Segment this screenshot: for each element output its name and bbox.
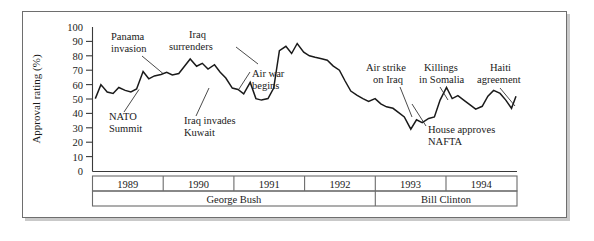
y-tick-label-0: 0: [78, 166, 83, 177]
annotation-somalia-line1: Killings: [424, 62, 458, 73]
y-tick-label-30: 30: [73, 123, 84, 134]
y-tick-label-70: 70: [73, 65, 84, 76]
y-tick-label-100: 100: [67, 22, 83, 33]
approval-rating-chart: 100 90 80 70 60 50 40 30 20 10 0 Approva…: [0, 0, 594, 241]
annotation-iraq-surrenders: Iraq surrenders: [169, 29, 258, 64]
y-tick-label-50: 50: [73, 94, 84, 105]
y-axis-title: Approval rating (%): [30, 54, 43, 144]
annotation-surrender-line2: surrenders: [169, 41, 213, 52]
year-label-1990: 1990: [188, 179, 209, 190]
annotation-somalia-line2: in Somalia: [419, 74, 465, 85]
annotation-surrender-line1: Iraq: [189, 29, 207, 40]
annotation-invade-line2: Kuwait: [184, 127, 215, 138]
year-band: 1989 1990 1991 1992 1993 1994: [93, 176, 518, 191]
annotation-haiti-line2: agreement: [477, 74, 521, 85]
annotation-airstrike-line1: Air strike: [366, 62, 406, 73]
annotation-nato-leader: [124, 90, 139, 113]
annotation-nafta-line1: House approves: [428, 124, 495, 135]
annotation-airstrike-leader: [400, 87, 412, 117]
annotation-panama-line2: invasion: [111, 43, 147, 54]
annotation-nafta-line2: NAFTA: [428, 136, 463, 147]
president-label-bush: George Bush: [206, 194, 262, 205]
president-label-clinton: Bill Clinton: [421, 194, 472, 205]
y-tick-label-60: 60: [73, 80, 84, 91]
president-band: George Bush Bill Clinton: [93, 191, 518, 206]
approval-rating-line: [95, 44, 516, 130]
annotation-surrender-leader: [236, 47, 258, 64]
y-tick-label-10: 10: [73, 152, 84, 163]
year-label-1989: 1989: [117, 179, 138, 190]
year-label-1994: 1994: [471, 179, 493, 190]
annotation-airwar-line2: begins: [252, 80, 279, 91]
data-series-approval-rating: [95, 44, 516, 130]
annotation-iraq-invades-kuwait: Iraq invades Kuwait: [184, 88, 236, 138]
annotation-nato-line1: NATO: [109, 111, 137, 122]
annotation-nato-summit: NATO Summit: [109, 90, 142, 135]
annotation-panama-invasion: Panama invasion: [111, 31, 163, 74]
annotation-invade-leader: [196, 88, 209, 116]
year-label-1991: 1991: [259, 179, 280, 190]
annotation-invade-line1: Iraq invades: [184, 115, 236, 126]
year-label-1992: 1992: [329, 179, 350, 190]
annotation-killings-in-somalia: Killings in Somalia: [419, 62, 465, 100]
annotation-haiti-line1: Haiti: [490, 62, 511, 73]
annotation-air-war-begins: Air war begins: [239, 68, 285, 91]
annotation-air-strike-on-iraq: Air strike on Iraq: [366, 62, 412, 117]
annotation-nato-line2: Summit: [109, 123, 142, 134]
y-tick-label-20: 20: [73, 137, 84, 148]
annotation-panama-line1: Panama: [111, 31, 145, 42]
annotation-house-approves-nafta: House approves NAFTA: [412, 104, 495, 147]
annotation-airwar-line1: Air war: [252, 68, 285, 79]
annotation-panama-leader: [142, 56, 163, 74]
y-tick-label-80: 80: [73, 51, 84, 62]
y-axis: 100 90 80 70 60 50 40 30 20 10 0 Approva…: [30, 22, 93, 177]
annotation-airstrike-line2: on Iraq: [373, 74, 404, 85]
y-tick-label-90: 90: [73, 36, 84, 47]
year-label-1993: 1993: [400, 179, 421, 190]
y-tick-label-40: 40: [73, 108, 84, 119]
